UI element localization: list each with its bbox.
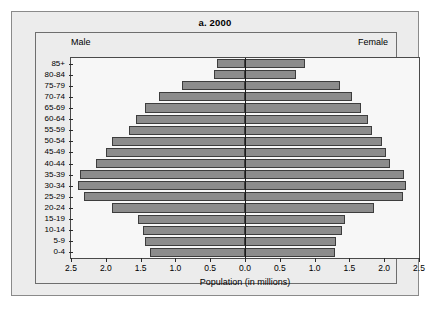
- bar-male: [145, 103, 245, 112]
- bar-female: [245, 92, 352, 101]
- figure-container: a. 2000 Male Female 85+80-8475-7970-7465…: [11, 11, 419, 296]
- x-axis-tick-label: 0.0: [239, 263, 251, 273]
- bar-male: [96, 159, 245, 168]
- bar-male: [129, 126, 245, 135]
- x-axis-tick-label: 1.0: [309, 263, 321, 273]
- bar-male: [217, 59, 245, 68]
- x-axis-tick: [280, 258, 281, 262]
- y-axis-tick-label: 55-59: [45, 126, 65, 134]
- bar-male: [145, 237, 245, 246]
- bar-female: [245, 203, 374, 212]
- bar-female: [245, 192, 403, 201]
- y-axis-tick-label: 50-54: [45, 137, 65, 145]
- y-axis-tick-label: 45-49: [45, 148, 65, 156]
- bar-male: [112, 137, 245, 146]
- x-axis-tick: [141, 258, 142, 262]
- x-axis-tick-label: 2.5: [413, 263, 425, 273]
- bar-male: [136, 115, 245, 124]
- chart-panel: Male Female 85+80-8475-7970-7465-6960-64…: [35, 32, 397, 284]
- bar-female: [245, 70, 296, 79]
- y-axis-tick-label: 35-39: [45, 171, 65, 179]
- y-axis-tick-label: 40-44: [45, 160, 65, 168]
- bar-female: [245, 159, 390, 168]
- x-axis-tick-label: 2.5: [65, 263, 77, 273]
- x-axis-tick: [419, 258, 420, 262]
- bar-male: [214, 70, 245, 79]
- bar-female: [245, 170, 404, 179]
- x-axis-tick-label: 1.5: [343, 263, 355, 273]
- x-axis-tick: [71, 258, 72, 262]
- y-axis-tick-label: 85+: [51, 60, 65, 68]
- x-axis-tick: [245, 258, 246, 262]
- x-axis-tick: [349, 258, 350, 262]
- bar-male: [159, 92, 245, 101]
- zero-axis-line: [245, 58, 246, 258]
- y-axis-tick-label: 80-84: [45, 71, 65, 79]
- x-axis-title: Population (in millions): [71, 277, 419, 287]
- bar-female: [245, 148, 386, 157]
- bar-female: [245, 215, 345, 224]
- x-axis-tick-label: 2.0: [378, 263, 390, 273]
- bar-female: [245, 226, 342, 235]
- bar-male: [112, 203, 245, 212]
- y-axis-tick-label: 70-74: [45, 93, 65, 101]
- bar-female: [245, 181, 406, 190]
- bar-female: [245, 248, 335, 257]
- y-axis-tick-label: 10-14: [45, 226, 65, 234]
- bar-female: [245, 115, 368, 124]
- x-axis-tick-label: 0.5: [204, 263, 216, 273]
- bar-female: [245, 237, 336, 246]
- y-axis-labels: 85+80-8475-7970-7465-6960-6455-5950-5445…: [37, 58, 69, 258]
- y-axis-tick-label: 30-34: [45, 182, 65, 190]
- x-axis-tick-label: 2.0: [100, 263, 112, 273]
- x-axis-tick: [210, 258, 211, 262]
- y-axis-tick-label: 75-79: [45, 82, 65, 90]
- y-axis-tick-label: 15-19: [45, 215, 65, 223]
- bar-male: [106, 148, 245, 157]
- plot-area: 85+80-8475-7970-7465-6960-6455-5950-5445…: [70, 57, 420, 259]
- bar-female: [245, 103, 361, 112]
- y-axis-tick-label: 65-69: [45, 104, 65, 112]
- x-axis-tick-label: 1.5: [135, 263, 147, 273]
- x-axis-tick-label: 0.5: [274, 263, 286, 273]
- bar-male: [78, 181, 245, 190]
- x-axis-tick: [315, 258, 316, 262]
- bar-female: [245, 126, 372, 135]
- x-axis-tick-label: 1.0: [169, 263, 181, 273]
- bar-male: [84, 192, 245, 201]
- bar-male: [182, 81, 245, 90]
- bar-female: [245, 81, 340, 90]
- x-axis-tick: [384, 258, 385, 262]
- legend-label-male: Male: [71, 37, 91, 47]
- bar-male: [143, 226, 245, 235]
- y-axis-tick-label: 20-24: [45, 204, 65, 212]
- bar-female: [245, 137, 382, 146]
- y-axis-tick-label: 5-9: [53, 237, 65, 245]
- legend-label-female: Female: [358, 37, 388, 47]
- y-axis-tick-label: 60-64: [45, 115, 65, 123]
- y-axis-tick-label: 25-29: [45, 193, 65, 201]
- x-axis-tick: [106, 258, 107, 262]
- y-axis-tick-label: 0-4: [53, 248, 65, 256]
- bar-female: [245, 59, 305, 68]
- bar-male: [138, 215, 245, 224]
- bar-male: [80, 170, 245, 179]
- bar-male: [150, 248, 245, 257]
- x-axis-tick: [175, 258, 176, 262]
- figure-title: a. 2000: [12, 17, 418, 28]
